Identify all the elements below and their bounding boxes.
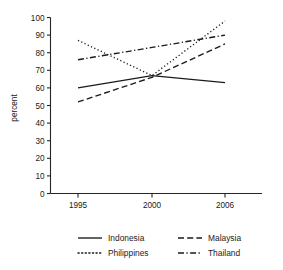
x-tick-group: 199520002006	[69, 194, 235, 210]
y-axis-title: percent	[10, 94, 19, 122]
data-series-group	[78, 21, 225, 102]
y-tick-label: 50	[35, 102, 45, 111]
y-tick-label: 20	[35, 154, 45, 163]
y-tick-label: 40	[35, 119, 45, 128]
y-tick-label: 90	[35, 31, 45, 40]
x-tick-label: 2000	[143, 201, 162, 210]
legend-label-malaysia: Malaysia	[208, 233, 241, 243]
y-tick-label: 10	[35, 172, 45, 181]
series-line-thailand	[78, 35, 225, 60]
line-chart-figure: 0102030405060708090100 199520002006 perc…	[0, 0, 283, 270]
x-tick-label: 2006	[216, 201, 235, 210]
y-tick-label: 60	[35, 84, 45, 93]
y-tick-label: 70	[35, 66, 45, 75]
series-line-malaysia	[78, 44, 225, 102]
y-tick-label: 30	[35, 137, 45, 146]
y-tick-label: 100	[31, 14, 45, 23]
legend-label-thailand: Thailand	[208, 248, 240, 258]
chart-canvas: 0102030405060708090100 199520002006 perc…	[0, 0, 283, 270]
series-line-philippines	[78, 21, 225, 76]
x-tick-label: 1995	[69, 201, 88, 210]
y-tick-label: 80	[35, 49, 45, 58]
legend-label-philippines: Philippines	[108, 248, 149, 258]
legend-label-indonesia: Indonesia	[108, 233, 145, 243]
chart-legend: IndonesiaMalaysiaPhilippinesThailand	[78, 233, 241, 258]
y-tick-label: 0	[40, 190, 45, 199]
y-tick-group: 0102030405060708090100	[31, 14, 51, 199]
